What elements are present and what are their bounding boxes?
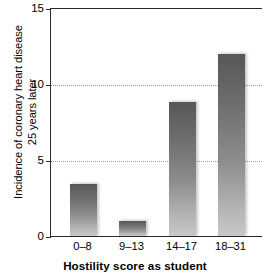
y-tick-mark-15 [46,9,51,10]
y-tick-label-5: 5 [4,155,50,166]
x-tick-label-18-31: 18–31 [198,240,263,253]
bar-chart-figure: Incidence of coronary heart disease 25 y… [0,0,270,276]
bar-18-31 [218,54,245,236]
bar-9-13 [119,221,146,236]
bar-14-17 [169,102,196,236]
y-tick-mark-0 [46,237,51,238]
bar-0-8 [70,184,97,236]
plot-area [50,8,262,237]
x-axis-title: Hostility score as student [0,259,270,272]
x-axis-tick-labels: 0–8 9–13 14–17 18–31 [50,240,262,256]
y-tick-label-15: 15 [4,3,50,14]
y-axis-tick-labels: 15 10 5 0 [0,0,50,276]
y-tick-label-0: 0 [4,231,50,242]
y-tick-label-10: 10 [4,79,50,90]
